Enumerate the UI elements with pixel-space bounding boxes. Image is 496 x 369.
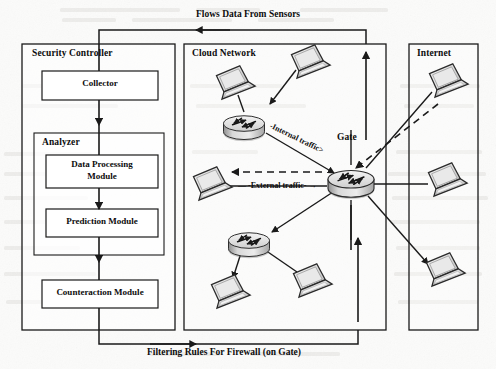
external-traffic-text: -External traffic-	[248, 181, 306, 190]
diagram-canvas: Flows Data From Sensors Filtering Rules …	[0, 0, 496, 369]
gate-label: Gate	[337, 133, 357, 143]
collector-label: Collector	[42, 79, 158, 88]
data-processing-module-label-line2: Module	[46, 172, 158, 181]
external-traffic-dash-left: —	[238, 181, 248, 190]
security-controller-title: Security Controller	[32, 49, 113, 59]
data-processing-module-label-line1: Data Processing	[46, 160, 158, 169]
gate-router	[328, 171, 374, 200]
cloud-network-title: Cloud Network	[192, 49, 256, 59]
flow-filtering-path	[99, 330, 358, 344]
flow-sensors-path	[99, 30, 366, 44]
cloud-router-bottom	[229, 233, 270, 258]
cloud-router-top	[224, 116, 265, 141]
external-traffic-arrow: →	[306, 181, 316, 190]
counteraction-module-label: Counteraction Module	[42, 288, 158, 297]
internet-title: Internet	[417, 49, 451, 59]
flow-filtering-caption: Filtering Rules For Firewall (on Gate)	[147, 348, 301, 358]
external-traffic-label: — -External traffic- →	[238, 182, 316, 190]
prediction-module-label: Prediction Module	[46, 217, 158, 226]
flow-sensors-caption: Flows Data From Sensors	[196, 10, 300, 20]
analyzer-title: Analyzer	[42, 138, 80, 148]
